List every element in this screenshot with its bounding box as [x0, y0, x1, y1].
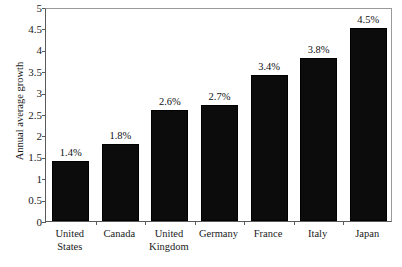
x-axis-category-label: France — [243, 227, 293, 240]
plot-area: 1.4%1.8%2.6%2.7%3.4%3.8%4.5% — [45, 8, 392, 222]
bar — [300, 58, 337, 221]
bar-column: 1.8% — [102, 9, 139, 221]
bar-chart: Annual average growth 00.511.522.533.544… — [0, 0, 402, 267]
x-axis-category-label-line: Japan — [342, 227, 392, 240]
y-axis-tick-labels: 00.511.522.533.544.55 — [16, 8, 42, 222]
x-axis-category-label-line: States — [45, 240, 95, 253]
x-axis-category-label-line: United — [144, 227, 194, 240]
x-axis-tick-mark — [96, 221, 97, 225]
y-axis-tick-label: 1 — [16, 174, 42, 185]
bar-column: 3.8% — [300, 9, 337, 221]
x-axis-tick-mark — [343, 221, 344, 225]
bar-value-label: 2.7% — [189, 91, 250, 102]
bar — [102, 144, 139, 221]
bar-column: 1.4% — [52, 9, 89, 221]
bar-value-label: 4.5% — [338, 14, 399, 25]
y-axis-tick-label: 0.5 — [16, 195, 42, 206]
bar — [151, 110, 188, 221]
bar-value-label: 3.8% — [288, 44, 349, 55]
bar-value-label: 3.4% — [239, 61, 300, 72]
bar-value-label: 1.8% — [90, 130, 151, 141]
x-axis-category-label-line: United — [45, 227, 95, 240]
x-axis-category-label-line: Germany — [194, 227, 244, 240]
bar-column: 4.5% — [350, 9, 387, 221]
x-axis-tick-mark — [195, 221, 196, 225]
y-axis-tick-label: 3.5 — [16, 67, 42, 78]
x-axis-category-label-line: France — [243, 227, 293, 240]
x-axis-category-label: UnitedKingdom — [144, 227, 194, 253]
x-axis-tick-labels: UnitedStatesCanadaUnitedKingdomGermanyFr… — [45, 227, 392, 267]
x-axis-category-label: Italy — [293, 227, 343, 240]
y-axis-tick-label: 0 — [16, 217, 42, 228]
bar — [201, 105, 238, 221]
x-axis-category-label: Germany — [194, 227, 244, 240]
y-axis-tick-label: 3 — [16, 88, 42, 99]
bar-column: 3.4% — [251, 9, 288, 221]
y-axis-tick-label: 4 — [16, 45, 42, 56]
x-axis-category-label-line: Italy — [293, 227, 343, 240]
y-axis-tick-label: 2.5 — [16, 110, 42, 121]
y-axis-tick-mark — [42, 222, 46, 223]
y-axis-tick-label: 5 — [16, 3, 42, 14]
bar — [350, 28, 387, 221]
y-axis-tick-label: 1.5 — [16, 152, 42, 163]
x-axis-category-label: UnitedStates — [45, 227, 95, 253]
bar-column: 2.6% — [151, 9, 188, 221]
bars-layer: 1.4%1.8%2.6%2.7%3.4%3.8%4.5% — [46, 9, 391, 221]
x-axis-tick-mark — [294, 221, 295, 225]
y-axis-tick-label: 4.5 — [16, 24, 42, 35]
x-axis-tick-mark — [244, 221, 245, 225]
x-axis-category-label: Canada — [95, 227, 145, 240]
x-axis-category-label-line: Canada — [95, 227, 145, 240]
bar-column: 2.7% — [201, 9, 238, 221]
bar — [251, 75, 288, 221]
x-axis-category-label: Japan — [342, 227, 392, 240]
y-axis-tick-label: 2 — [16, 131, 42, 142]
bar-value-label: 1.4% — [40, 147, 101, 158]
x-axis-category-label-line: Kingdom — [144, 240, 194, 253]
bar — [52, 161, 89, 221]
x-axis-tick-mark — [145, 221, 146, 225]
